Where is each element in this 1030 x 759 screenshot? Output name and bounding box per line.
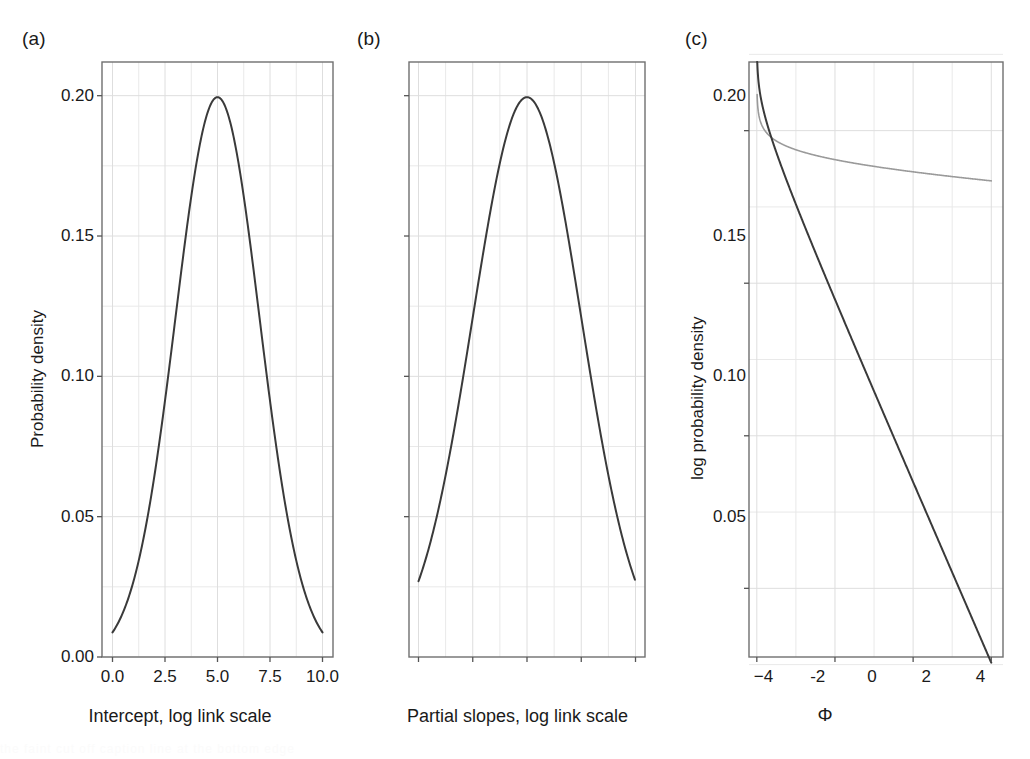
panel-c-xlabel: Φ [670, 704, 980, 726]
y-tick-label: 0.00 [54, 647, 94, 667]
panel-c-plot [670, 0, 1030, 700]
panel-a: (a) Probability density Intercept, log l… [0, 0, 360, 759]
panel-b: (b) Partial slopes, log link scale −4-20… [345, 0, 690, 759]
x-tick-label: 7.5 [258, 667, 282, 687]
y-tick-label: 0.05 [54, 507, 94, 527]
y-tick-label: 0.10 [54, 366, 94, 386]
panel-a-xlabel: Intercept, log link scale [0, 706, 360, 727]
cut-off-caption: the faint cut off caption line at the bo… [0, 742, 1030, 759]
x-tick-label: 2.5 [153, 667, 177, 687]
panel-c-ylabel: log probability density [688, 317, 708, 480]
y-tick-label: 0.15 [54, 226, 94, 246]
figure-canvas: (a) Probability density Intercept, log l… [0, 0, 1030, 759]
panel-b-plot [345, 0, 690, 700]
x-tick-label: 5.0 [206, 667, 230, 687]
panel-b-xlabel: Partial slopes, log link scale [345, 706, 690, 727]
panel-c: (c) log probability density Φ 0123−30−20… [670, 0, 1030, 759]
panel-a-ylabel: Probability density [28, 310, 48, 448]
x-tick-label: 10.0 [306, 667, 339, 687]
y-tick-label: 0.20 [54, 86, 94, 106]
x-tick-label: 0.0 [101, 667, 125, 687]
